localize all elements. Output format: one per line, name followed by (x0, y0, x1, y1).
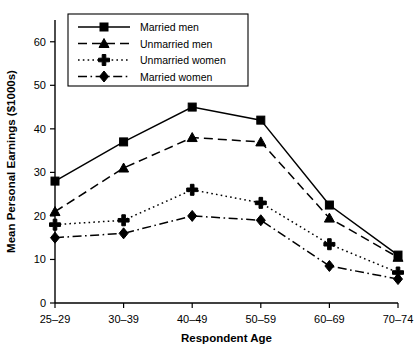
series-line (55, 107, 398, 255)
x-tick-label: 50–59 (246, 313, 277, 325)
y-tick-label: 0 (40, 297, 46, 309)
data-point (119, 228, 128, 239)
legend-label: Married women (140, 71, 213, 83)
data-point (51, 232, 60, 243)
data-point (256, 215, 265, 226)
series-line (55, 190, 398, 273)
legend: Married menUnmarried menUnmarried womenM… (68, 14, 248, 86)
x-tick-label: 25–29 (40, 313, 71, 325)
data-point (118, 215, 129, 226)
line-chart: 010203040506025–2930–3940–4950–5960–6970… (0, 0, 420, 354)
data-point (50, 207, 60, 216)
y-tick-label: 10 (34, 253, 46, 265)
data-point (188, 210, 197, 221)
data-point (325, 201, 333, 209)
y-tick-label: 20 (34, 210, 46, 222)
data-point (257, 116, 265, 124)
data-point (51, 177, 59, 185)
y-tick-label: 60 (34, 36, 46, 48)
series-line (55, 138, 398, 258)
legend-label: Unmarried men (140, 38, 213, 50)
x-tick-label: 40–49 (177, 313, 208, 325)
data-point (325, 260, 334, 271)
x-tick-label: 60–69 (314, 313, 345, 325)
x-tick-label: 70–74 (383, 313, 414, 325)
data-point (188, 103, 196, 111)
data-point (255, 197, 266, 208)
x-axis-title: Respondent Age (181, 332, 272, 344)
y-axis-title: Mean Personal Earnings ($1000s) (5, 70, 17, 253)
data-point (120, 138, 128, 146)
legend-marker (100, 23, 108, 31)
series-line (55, 216, 398, 279)
y-tick-label: 30 (34, 166, 46, 178)
data-point (394, 274, 403, 285)
y-tick-label: 50 (34, 79, 46, 91)
data-point (256, 137, 266, 146)
data-point (50, 219, 61, 230)
legend-label: Married men (140, 21, 199, 33)
chart-container: 010203040506025–2930–3940–4950–5960–6970… (0, 0, 420, 354)
x-tick-label: 30–39 (108, 313, 139, 325)
series-unmarried-women (50, 184, 404, 278)
legend-label: Unmarried women (140, 54, 226, 66)
data-point (119, 163, 129, 172)
y-tick-label: 40 (34, 123, 46, 135)
data-point (187, 184, 198, 195)
data-point (324, 239, 335, 250)
